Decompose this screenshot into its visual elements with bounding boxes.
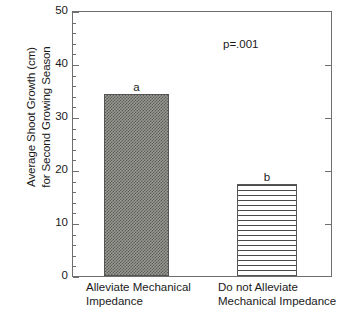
y-minor-tick <box>73 44 76 45</box>
plot-area: p=.001 a b <box>72 11 332 277</box>
bar-letter-a: a <box>104 81 169 93</box>
y-minor-tick <box>73 107 76 108</box>
bar-alleviate-mechanical-impedance <box>104 94 169 276</box>
bar-do-not-alleviate-mechanical-impedance <box>237 184 297 276</box>
y-major-tick-10 <box>73 224 79 225</box>
y-minor-tick <box>73 213 76 214</box>
y-axis-tick-labels: 50 40 30 20 10 0 <box>22 0 68 321</box>
y-minor-tick <box>73 266 76 267</box>
y-major-tick-50 <box>73 12 79 13</box>
y-minor-tick <box>73 182 76 183</box>
y-minor-tick <box>73 150 76 151</box>
cut-off-caption-strip <box>0 316 345 321</box>
p-value-annotation: p=.001 <box>223 38 259 50</box>
y-minor-tick <box>73 54 76 55</box>
y-tick-label-10: 10 <box>24 217 68 228</box>
y-major-tick-right-40 <box>325 65 331 66</box>
y-major-tick-right-30 <box>325 118 331 119</box>
y-tick-label-0: 0 <box>24 270 68 281</box>
y-minor-tick <box>73 192 76 193</box>
x-category-label-2-line1: Do not Alleviate <box>218 281 298 293</box>
y-minor-tick <box>73 203 76 204</box>
y-major-tick-20 <box>73 171 79 172</box>
y-tick-label-20: 20 <box>24 164 68 175</box>
y-minor-tick <box>73 86 76 87</box>
y-major-tick-30 <box>73 118 79 119</box>
y-minor-tick <box>73 256 76 257</box>
x-category-label-1-line1: Alleviate Mechanical <box>86 281 191 293</box>
bar-letter-b: b <box>237 171 297 183</box>
y-minor-tick <box>73 76 76 77</box>
y-tick-label-50: 50 <box>24 5 68 16</box>
y-minor-tick <box>73 235 76 236</box>
y-tick-label-40: 40 <box>24 58 68 69</box>
y-minor-tick <box>73 160 76 161</box>
x-category-label-1-line2: Impedance <box>86 295 221 309</box>
y-minor-tick <box>73 129 76 130</box>
y-major-tick-0 <box>73 277 79 278</box>
y-tick-label-30: 30 <box>24 111 68 122</box>
x-category-label-2-line2: Mechanical Impedance <box>218 295 345 309</box>
y-minor-tick <box>73 97 76 98</box>
y-major-tick-right-20 <box>325 171 331 172</box>
x-category-label-1: Alleviate Mechanical Impedance <box>86 281 221 308</box>
y-minor-tick <box>73 139 76 140</box>
chart-figure: Average Shoot Growth (cm) for Second Gro… <box>0 0 345 321</box>
y-major-tick-40 <box>73 65 79 66</box>
y-minor-tick <box>73 245 76 246</box>
y-minor-tick <box>73 23 76 24</box>
y-major-tick-right-10 <box>325 224 331 225</box>
y-minor-tick <box>73 33 76 34</box>
x-category-label-2: Do not Alleviate Mechanical Impedance <box>218 281 345 308</box>
